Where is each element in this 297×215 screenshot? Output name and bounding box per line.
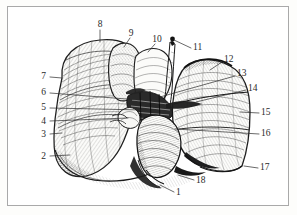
figure-label-17: 17 [260, 163, 270, 173]
figure-label-2: 2 [41, 152, 46, 162]
figure-label-7: 7 [41, 72, 46, 82]
leader-line-17 [244, 166, 258, 168]
leader-line-7 [50, 77, 62, 78]
figure-label-12: 12 [224, 55, 234, 65]
figure-label-10: 10 [152, 35, 162, 45]
figure-label-9: 9 [129, 29, 134, 39]
apex-nodule [170, 37, 175, 42]
figure-label-8: 8 [98, 20, 103, 30]
figure-label-14: 14 [248, 84, 258, 94]
figure-label-3: 3 [41, 130, 46, 140]
leader-line-11 [174, 40, 191, 48]
figure-label-6: 6 [41, 88, 46, 98]
figure-label-5: 5 [41, 103, 46, 113]
figure-label-11: 11 [193, 43, 202, 53]
figure-label-13: 13 [237, 69, 247, 79]
figure-label-16: 16 [261, 129, 271, 139]
figure-label-1: 1 [176, 188, 181, 198]
figure-label-15: 15 [261, 108, 271, 118]
anatomical-figure-plate: 123456789101112131415161718 [0, 0, 297, 215]
figure-label-18: 18 [196, 176, 206, 186]
figure-label-4: 4 [41, 117, 46, 127]
